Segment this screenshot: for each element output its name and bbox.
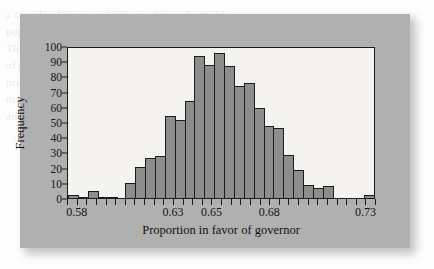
y-axis-tick-label: 90 — [51, 56, 63, 68]
y-axis-title: Frequency — [13, 97, 28, 150]
y-axis-tick-label: 60 — [51, 102, 63, 114]
x-axis-tick-label: 0.63 — [162, 205, 183, 220]
y-axis-tick-label: 20 — [51, 163, 63, 175]
x-axis-title: Proportion in favor of governor — [67, 223, 375, 238]
y-axis-tick-label: 50 — [51, 117, 63, 129]
x-axis-tick-label: 0.58 — [66, 205, 87, 220]
y-axis-tick-label: 30 — [51, 147, 63, 159]
plot-area — [67, 47, 375, 199]
x-axis-tick-labels: 0.580.630.650.680.73 — [67, 205, 375, 221]
histogram-bars — [68, 48, 374, 198]
histogram-bar — [364, 195, 375, 198]
x-axis-tick-label: 0.68 — [259, 205, 280, 220]
y-axis-tick-label: 80 — [51, 71, 63, 83]
y-axis-tick-label: 70 — [51, 87, 63, 99]
y-axis-tick-label: 100 — [45, 41, 62, 53]
histogram-bar — [108, 197, 119, 199]
y-axis-tick-label: 10 — [51, 178, 63, 190]
x-axis-tick-label: 0.73 — [355, 205, 376, 220]
histogram-bar — [323, 186, 334, 198]
figure-page: a sample of size n = 1000 was drawn from… — [0, 0, 434, 269]
y-axis-tick-labels: 0102030405060708090100 — [30, 47, 62, 199]
x-axis-tick-label: 0.65 — [201, 205, 222, 220]
y-axis-tick-label: 40 — [51, 132, 63, 144]
